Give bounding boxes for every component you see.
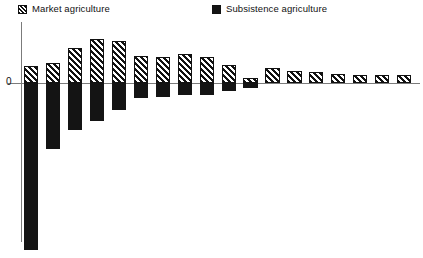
bar-group	[68, 0, 82, 258]
bar-subsistence-agriculture	[90, 83, 104, 121]
bar-chart: Market agriculture Subsistence agricultu…	[0, 0, 423, 258]
bar-subsistence-agriculture	[134, 83, 148, 98]
bar-group	[222, 0, 236, 258]
bar-group	[243, 0, 257, 258]
bar-market-agriculture	[112, 41, 126, 83]
bar-group	[90, 0, 104, 258]
bar-subsistence-agriculture	[24, 83, 38, 250]
bar-subsistence-agriculture	[112, 83, 126, 110]
bar-group	[134, 0, 148, 258]
bar-group	[331, 0, 345, 258]
bar-market-agriculture	[24, 66, 38, 83]
bar-market-agriculture	[397, 75, 411, 83]
bar-market-agriculture	[178, 54, 192, 83]
bar-group	[397, 0, 411, 258]
bar-market-agriculture	[375, 75, 389, 83]
bar-market-agriculture	[46, 63, 60, 83]
bar-group	[309, 0, 323, 258]
bar-market-agriculture	[134, 56, 148, 83]
bar-group	[46, 0, 60, 258]
bar-group	[112, 0, 126, 258]
bar-subsistence-agriculture	[222, 83, 236, 91]
bar-subsistence-agriculture	[178, 83, 192, 95]
bar-group	[287, 0, 301, 258]
bar-subsistence-agriculture	[68, 83, 82, 130]
bar-market-agriculture	[222, 65, 236, 83]
bar-market-agriculture	[353, 75, 367, 83]
bar-market-agriculture	[265, 68, 279, 83]
bar-subsistence-agriculture	[46, 83, 60, 149]
bar-market-agriculture	[287, 71, 301, 83]
bar-market-agriculture	[309, 72, 323, 83]
bars-layer	[0, 0, 423, 258]
bar-subsistence-agriculture	[243, 83, 257, 88]
bar-group	[178, 0, 192, 258]
bar-group	[375, 0, 389, 258]
bar-market-agriculture	[331, 74, 345, 83]
bar-market-agriculture	[68, 48, 82, 83]
bar-market-agriculture	[90, 39, 104, 83]
bar-market-agriculture	[156, 57, 170, 83]
plot-area: 0	[0, 0, 423, 258]
bar-group	[200, 0, 214, 258]
bar-group	[353, 0, 367, 258]
bar-market-agriculture	[200, 57, 214, 83]
bar-subsistence-agriculture	[156, 83, 170, 97]
bar-group	[156, 0, 170, 258]
bar-group	[24, 0, 38, 258]
bar-subsistence-agriculture	[200, 83, 214, 95]
bar-group	[265, 0, 279, 258]
